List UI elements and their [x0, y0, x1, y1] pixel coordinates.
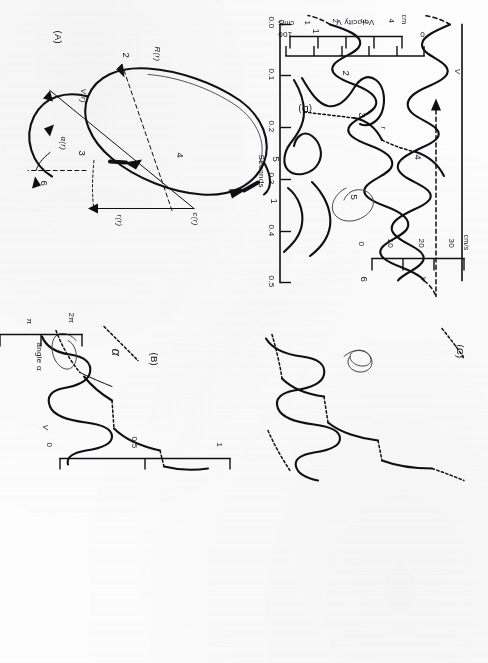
panel-c: (C)	[250, 320, 472, 490]
trajectory-loop	[85, 68, 266, 195]
panel-c-alpha-flat2	[378, 440, 382, 460]
panel-d-lower-wave	[284, 188, 302, 252]
panel-a-label-alpha: α(r)	[59, 136, 68, 150]
panel-a-label-c: c(r)	[191, 212, 200, 225]
panel-a-point-6: 6	[39, 180, 50, 186]
panel-a-letter: (A)	[53, 30, 64, 44]
axis-velocity-right-tick-label-0: 0	[420, 30, 425, 39]
angle-alpha-arc	[36, 152, 50, 170]
axis-velocity-right-tick-label-100: 100	[278, 30, 292, 39]
axis-angle-graphic	[0, 300, 88, 360]
panel-b-letter: (B)	[149, 352, 160, 366]
axis-normalized-tick-label-05: 0.5	[130, 436, 139, 448]
panel-d-letter: (D)	[298, 104, 312, 115]
angle-alpha-tick-left	[44, 124, 54, 136]
trajectory-inner-echo	[148, 74, 262, 162]
axis-angle-title: angle α	[35, 342, 44, 371]
axis-velocity-left-series-label: V	[419, 276, 428, 282]
axis-velocity-right-unit: cm/s	[278, 20, 294, 27]
axis-normalized-tick-label-1: 1	[215, 442, 224, 447]
panel-a-point-3: 3	[77, 150, 88, 156]
axis-normalized: 1 0.5 0	[38, 436, 238, 484]
panel-c-alpha-dotted-top	[432, 468, 464, 480]
panel-d-region: cm/s 100 0 Velocity V (D)	[258, 18, 468, 268]
vector-R-axis	[122, 64, 172, 210]
panel-c-alpha-flat1	[324, 396, 328, 422]
panel-d-region-graphic	[258, 18, 468, 268]
trajectory-tail-bottom	[29, 94, 88, 176]
panel-c-graphic	[250, 320, 472, 490]
panel-b-alpha-flat1	[112, 400, 114, 428]
panel-c-alpha-step1	[282, 378, 324, 396]
panel-a-label-r: r(r)	[115, 214, 124, 226]
panel-d-velocity-curve	[284, 80, 321, 174]
panel-b-alpha-step1	[84, 376, 112, 400]
axis-normalized-tick-label-0: 0	[45, 442, 54, 447]
panel-b-label-V: V	[41, 424, 50, 430]
panel-d-alpha-step-2	[416, 152, 444, 176]
panel-d-loop-decoration	[332, 188, 373, 221]
panel-a-label-R: R(r)	[153, 46, 162, 61]
panel-d-alpha-step-1	[354, 118, 382, 140]
panel-a-label-V: V(r)	[79, 88, 88, 103]
panel-c-alpha-dotted1	[272, 334, 282, 378]
panel-c-dotted-bottom	[268, 430, 290, 470]
panel-d-velocity-curve-2	[302, 77, 384, 125]
axis-angle-tick-label-2pi: 2π	[67, 312, 76, 323]
panel-a-point-2: 2	[121, 52, 132, 58]
panel-c-squiggle-decoration	[344, 350, 372, 372]
panel-a-point-4: 4	[175, 152, 186, 158]
panel-c-velocity-curve	[266, 338, 340, 480]
arc-near-point-3	[93, 160, 95, 208]
axis-time-tick-label-05: 0.5	[267, 275, 276, 287]
panel-d-lower-wave-2	[310, 182, 330, 256]
axis-angle: 2π π 0 angle α	[0, 300, 88, 360]
panel-d-alpha-dotted-2	[382, 140, 416, 152]
panel-b-label-alpha: α	[109, 348, 124, 356]
panel-c-alpha-step3	[382, 460, 432, 468]
axis-angle-tick-label-pi: π	[25, 318, 34, 324]
vector-V-line	[50, 90, 194, 208]
panel-c-letter: (C)	[455, 344, 466, 358]
direction-arrow-lower-shaft	[110, 161, 126, 162]
axis-velocity-right-title: Velocity V	[336, 18, 374, 27]
